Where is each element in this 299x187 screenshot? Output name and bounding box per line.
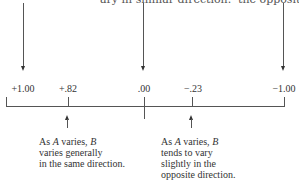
down-arrow-shaft-negative-one	[283, 3, 284, 67]
up-arrow-shaft-positive	[67, 119, 68, 128]
up-arrow-shaft-negative	[191, 119, 192, 128]
scale-end-left	[6, 97, 7, 107]
note-line: tends to vary	[161, 147, 235, 158]
down-arrow-shaft-positive-one	[23, 3, 24, 67]
scale-end-right	[284, 97, 285, 107]
arrow-down-icon	[281, 66, 285, 71]
note-line: As A varies, B	[161, 136, 235, 147]
cropped-caption-right: the opposite d	[238, 0, 299, 6]
down-arrow-shaft-zero	[143, 3, 144, 67]
scale-tick-zero	[144, 97, 145, 119]
scale-tick-minus-23	[192, 97, 193, 107]
note-negative-correlation: As A varies, B tends to vary slightly in…	[161, 136, 235, 180]
note-line: varies generally	[39, 147, 125, 158]
tick-label-zero: .00	[138, 83, 151, 94]
cropped-caption-left: ary in similar direction.	[100, 0, 231, 6]
note-positive-correlation: As A varies, B varies generally in the s…	[39, 136, 125, 169]
tick-label-plus-1: +1.00	[11, 83, 34, 94]
tick-label-minus-1: −1.00	[272, 83, 295, 94]
arrow-down-icon	[141, 66, 145, 71]
note-line: As A varies, B	[39, 136, 125, 147]
arrow-down-icon	[21, 66, 25, 71]
note-line: slightly in the	[161, 158, 235, 169]
note-line: opposite direction.	[161, 169, 235, 180]
note-line: in the same direction.	[39, 158, 125, 169]
scale-baseline	[6, 106, 285, 107]
tick-label-minus-23: −.23	[184, 83, 202, 94]
tick-label-plus-82: +.82	[59, 83, 77, 94]
scale-tick-plus-82	[68, 97, 69, 107]
